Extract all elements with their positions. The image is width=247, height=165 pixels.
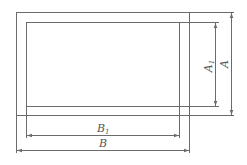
inner-rectangle xyxy=(27,23,180,107)
frame-diagram: B1 B A1 A xyxy=(0,0,247,165)
label-b: B xyxy=(98,137,107,150)
label-a: A xyxy=(218,60,231,69)
label-b1: B1 xyxy=(96,122,110,136)
label-a1: A1 xyxy=(202,60,216,73)
outer-rectangle xyxy=(17,13,190,116)
